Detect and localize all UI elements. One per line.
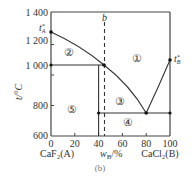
region-2: ② [64,46,74,58]
liquidus-curve-B [146,60,170,113]
point-right-eutectic [168,111,171,114]
right-component-label: CaCl₂(B) [141,148,178,160]
point-peritectic [102,63,106,67]
point-tA [49,30,53,34]
y-tick-1000: 1 000 [26,60,49,71]
y-tick-600: 600 [33,130,48,141]
y-tick-800: 800 [33,100,48,111]
left-component-label: CaF₂(A) [40,148,74,160]
figure-caption: (b) [95,163,106,173]
tA-label: t*A [39,22,46,34]
point-compound-eutectic [97,111,100,114]
y-tick-1400: 1 400 [26,7,49,18]
region-5: ⑤ [67,103,77,115]
y-axis-label: t/°C [13,84,24,101]
plot-frame [51,12,170,136]
phase-lines [51,22,170,136]
region-1: ① [132,52,142,64]
phase-diagram: 600 800 1 000 1 200 1 400 t/°C 0 20 40 6… [0,0,192,176]
region-labels: ① ② ③ ④ ⑤ [64,46,142,128]
point-tB [168,58,172,62]
region-4: ④ [123,116,133,128]
x-axis-label: wB/% [100,148,122,161]
point-eutectic [144,111,148,115]
tB-label: t*B [174,53,181,65]
line-b-label: b [102,12,107,23]
y-tick-1200: 1 200 [26,35,49,46]
region-3: ③ [115,95,125,107]
point-left-1000 [49,63,52,66]
